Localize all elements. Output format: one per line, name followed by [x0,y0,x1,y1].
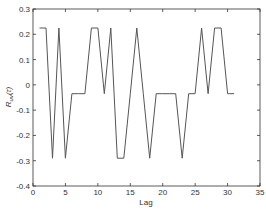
y-tick-label: 0.1 [19,56,31,65]
x-tick-label: 25 [191,188,200,197]
svg-text:Ruv(τ): Ruv(τ) [4,86,14,107]
y-tick-label: 0 [26,81,31,90]
x-tick-label: 30 [223,188,232,197]
y-axis-label-suffix: (τ) [4,86,13,95]
x-axis-label: Lag [139,198,152,207]
axes-frame [33,9,260,186]
y-tick-label: -0.4 [16,182,30,191]
y-tick-label: 0.2 [19,30,31,39]
y-tick-label: -0.2 [16,131,30,140]
y-tick-label: 0.3 [19,5,31,14]
x-tick-label: 0 [31,188,36,197]
x-tick-label: 10 [93,188,102,197]
y-axis-label: Ruv(τ) [4,86,14,107]
y-tick-label: -0.3 [16,157,30,166]
x-tick-label: 15 [126,188,135,197]
chart: 05101520253035-0.4-0.3-0.2-0.100.10.20.3… [0,0,266,219]
x-tick-label: 5 [63,188,68,197]
x-tick-label: 20 [158,188,167,197]
y-tick-label: -0.1 [16,106,30,115]
series-line [40,28,235,158]
plot-area [40,28,235,158]
axes: 05101520253035-0.4-0.3-0.2-0.100.10.20.3 [16,5,265,197]
x-tick-label: 35 [256,188,265,197]
